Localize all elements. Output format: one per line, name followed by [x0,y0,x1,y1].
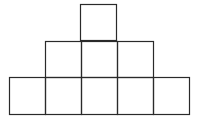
square-cell [154,78,190,115]
square-cell [118,42,154,78]
square-cell [82,42,118,78]
row-top [81,5,117,41]
square-cells [10,5,190,115]
square-cell [10,78,46,115]
row-middle [46,42,154,78]
square-cell [82,78,118,115]
square-cell [46,78,82,115]
square-cell [81,5,117,41]
row-bottom [10,78,190,115]
square-cell [118,78,154,115]
square-cell [46,42,82,78]
square-pyramid-diagram [0,0,198,116]
